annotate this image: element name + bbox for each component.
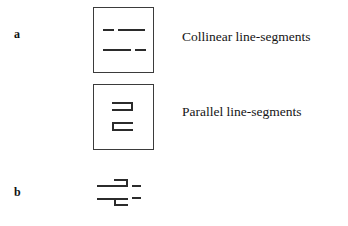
b-top-short-dash (132, 185, 141, 187)
parallel-upper-bottom-segment (112, 109, 133, 111)
b-bottom-bracket-bottom (114, 204, 128, 206)
parallel-lower-top-segment (112, 122, 133, 124)
parallel-stimulus-box (93, 84, 154, 150)
parallel-lower-bottom-segment (112, 129, 133, 131)
b-top-bracket-bottom (114, 185, 128, 187)
caption-parallel: Parallel line-segments (182, 105, 302, 120)
b-bottom-long-dash (97, 198, 115, 200)
collinear-bottom-long-dash (103, 49, 131, 51)
combined-stimulus (97, 174, 157, 210)
b-bottom-short-dash (132, 197, 141, 199)
collinear-stimulus-box (93, 7, 154, 73)
parallel-upper-top-segment (112, 102, 133, 104)
panel-label-a: a (14, 28, 20, 40)
caption-collinear: Collinear line-segments (182, 30, 311, 45)
collinear-top-short-dash (103, 29, 114, 31)
panel-label-b: b (14, 186, 21, 198)
collinear-top-long-dash (118, 29, 145, 31)
figure-container: a b Collinear line-segments Parallel lin… (0, 0, 348, 226)
b-top-long-dash (97, 185, 115, 187)
b-bottom-bracket-top (114, 198, 128, 200)
collinear-bottom-short-dash (135, 49, 146, 51)
